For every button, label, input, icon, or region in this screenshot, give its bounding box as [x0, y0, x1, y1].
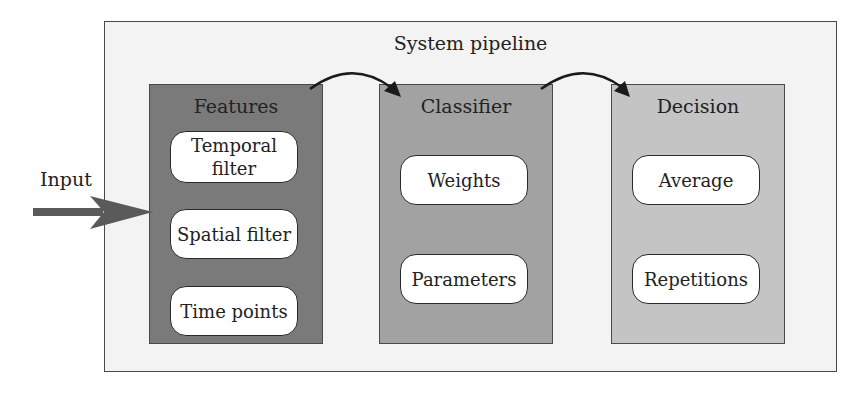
curved-arrow-classifier-to-decision-icon	[541, 73, 630, 97]
connector-arrows	[0, 0, 867, 395]
curved-arrow-features-to-classifier-icon	[310, 73, 401, 97]
input-arrow-icon	[33, 196, 153, 229]
